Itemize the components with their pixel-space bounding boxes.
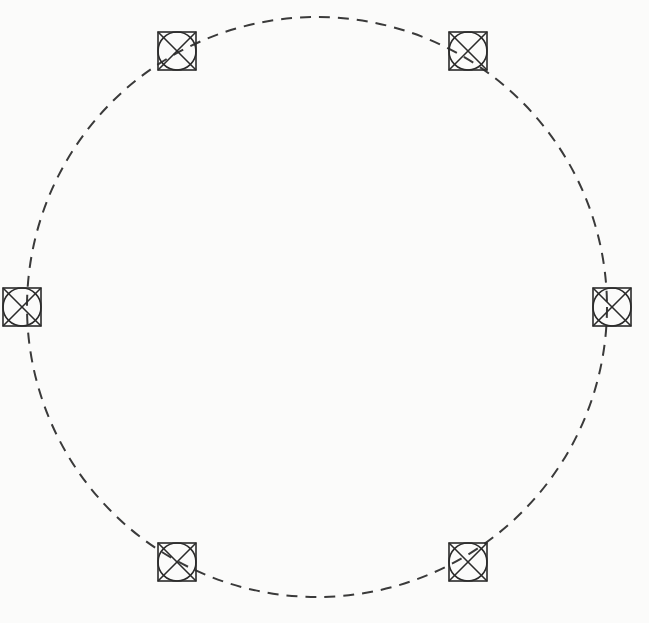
ring-topology-diagram: Ring topology diagram [0,0,649,623]
diagram-canvas: Ring topology diagram [0,0,649,623]
node-group [3,32,631,581]
node-marker[interactable] [158,32,196,70]
node-marker[interactable] [3,288,41,326]
dashed-ring-path [27,17,607,597]
node-marker[interactable] [593,288,631,326]
node-marker[interactable] [158,543,196,581]
